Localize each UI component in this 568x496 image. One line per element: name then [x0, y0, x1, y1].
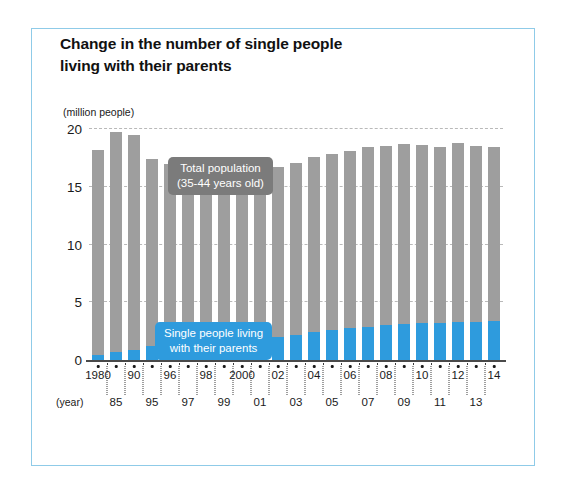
- x-axis-tick-dot: [115, 365, 118, 368]
- bar-segment-total-population: [308, 157, 319, 360]
- bar-group: [344, 129, 355, 360]
- bar-segment-total-population: [272, 167, 283, 360]
- x-axis-label-bottom: 85: [110, 396, 123, 408]
- bar-segment-single-people: [272, 337, 283, 360]
- x-axis-label-bottom: 95: [146, 396, 159, 408]
- bar-segment-total-population: [110, 132, 121, 360]
- x-axis-label-top: 14: [488, 369, 501, 381]
- x-axis-label-top: 96: [164, 369, 177, 381]
- x-axis-label-top: 08: [380, 369, 393, 381]
- legend-total-line-1: Total population: [177, 161, 264, 176]
- title-line-2: living with their parents: [60, 55, 460, 77]
- bar-group: [290, 129, 301, 360]
- x-axis-labels-top: 1980909698200002040608101214: [89, 369, 503, 385]
- x-axis-tick-dot: [349, 365, 352, 368]
- bar-group: [416, 129, 427, 360]
- bar-segment-total-population: [128, 135, 139, 360]
- bar-segment-single-people: [362, 327, 373, 360]
- x-axis-tick-dot: [421, 365, 424, 368]
- y-axis-tick-label: 15: [67, 179, 82, 194]
- y-axis-tick-label: 10: [67, 237, 82, 252]
- x-axis-tick-dot: [241, 365, 244, 368]
- bar-group: [398, 129, 409, 360]
- bar-segment-single-people: [470, 322, 481, 360]
- bar-segment-single-people: [488, 321, 499, 360]
- bar-segment-single-people: [398, 324, 409, 360]
- bar-segment-single-people: [290, 335, 301, 360]
- x-axis-tick-dot: [385, 365, 388, 368]
- bar-group: [110, 129, 121, 360]
- x-axis-tick-dot: [313, 365, 316, 368]
- x-axis-tick-dot: [277, 365, 280, 368]
- x-axis-label-top: 1980: [85, 369, 111, 381]
- bar-segment-single-people: [326, 330, 337, 360]
- x-axis-label-top: 02: [272, 369, 285, 381]
- x-axis-tick-dot: [151, 365, 154, 368]
- x-axis-label-top: 10: [416, 369, 429, 381]
- bar-segment-single-people: [452, 322, 463, 360]
- x-axis-tick-dot: [331, 365, 334, 368]
- y-axis-tick-label: 5: [74, 295, 82, 310]
- x-axis-tick-dot: [97, 365, 100, 368]
- x-axis-label-bottom: 99: [218, 396, 231, 408]
- x-axis-labels-bottom: 8595979901030507091113: [89, 396, 503, 412]
- legend-total-population: Total population (35-44 years old): [168, 157, 273, 195]
- y-axis-unit-label: (million people): [63, 106, 134, 118]
- bar-group: [470, 129, 481, 360]
- bar-group: [452, 129, 463, 360]
- bar-group: [272, 129, 283, 360]
- legend-single-line-1: Single people living: [164, 326, 263, 341]
- bar-segment-total-population: [92, 150, 103, 360]
- legend-single-people: Single people living with their parents: [155, 322, 272, 360]
- x-axis-tick-dot: [439, 365, 442, 368]
- x-axis-unit-label: (year): [56, 396, 83, 408]
- title-line-1: Change in the number of single people: [60, 33, 460, 55]
- x-axis-label-top: 2000: [229, 369, 255, 381]
- bar-segment-single-people: [434, 323, 445, 360]
- x-axis-label-bottom: 11: [434, 396, 446, 408]
- x-axis-label-bottom: 03: [290, 396, 303, 408]
- bar-group: [380, 129, 391, 360]
- bar-group: [434, 129, 445, 360]
- bar-segment-single-people: [308, 332, 319, 360]
- bar-group: [362, 129, 373, 360]
- page-title: Change in the number of single people li…: [60, 33, 460, 78]
- bar-group: [308, 129, 319, 360]
- x-axis-tick-dot: [223, 365, 226, 368]
- bar-segment-single-people: [344, 328, 355, 360]
- x-axis-label-bottom: 05: [326, 396, 339, 408]
- x-axis-tick-dot: [493, 365, 496, 368]
- x-axis-label-top: 06: [344, 369, 357, 381]
- bar-segment-single-people: [128, 350, 139, 360]
- x-axis-tick-dot: [457, 365, 460, 368]
- legend-single-line-2: with their parents: [164, 341, 263, 356]
- bars-layer: [89, 129, 503, 360]
- legend-total-line-2: (35-44 years old): [177, 176, 264, 191]
- bar-group: [326, 129, 337, 360]
- x-axis-label-top: 98: [200, 369, 213, 381]
- x-axis-label-top: 04: [308, 369, 321, 381]
- bar-segment-single-people: [110, 352, 121, 360]
- x-axis-label-bottom: 01: [254, 396, 267, 408]
- x-axis-label-bottom: 07: [362, 396, 375, 408]
- bar-group: [92, 129, 103, 360]
- x-axis-label-bottom: 09: [398, 396, 411, 408]
- bar-segment-single-people: [416, 323, 427, 360]
- x-axis-tick-dot: [475, 365, 478, 368]
- x-axis-tick-dot: [187, 365, 190, 368]
- x-axis-tick-dot: [205, 365, 208, 368]
- y-axis-tick-label: 20: [67, 122, 82, 137]
- x-axis-tick-dot: [295, 365, 298, 368]
- x-axis-label-bottom: 97: [182, 396, 195, 408]
- bar-group: [128, 129, 139, 360]
- x-axis-label-top: 12: [452, 369, 465, 381]
- plot-area: 05101520: [89, 129, 503, 360]
- y-axis-tick-label: 0: [74, 353, 82, 368]
- x-axis-tick-dot: [403, 365, 406, 368]
- bar-segment-single-people: [380, 325, 391, 360]
- bar-segment-total-population: [290, 163, 301, 361]
- bar-group: [488, 129, 499, 360]
- x-axis-tick-dot: [169, 365, 172, 368]
- x-axis-tick-dot: [133, 365, 136, 368]
- x-axis-tick-dot: [367, 365, 370, 368]
